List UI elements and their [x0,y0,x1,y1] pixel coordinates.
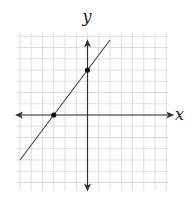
x-axis-label: x [175,105,184,124]
grid [17,33,168,190]
coordinate-plane: x y [0,0,192,201]
x-intercept-point [51,112,56,117]
axes [15,39,174,191]
y-intercept-point [85,67,90,72]
y-axis-label: y [82,7,93,26]
